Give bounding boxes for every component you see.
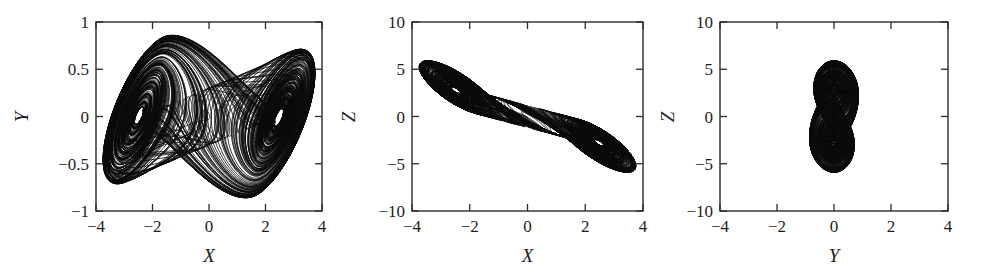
panel-yz: −4 −2 0 2 4 10 5 0 −5 −10 Y Z [660,0,996,276]
xtick-label: −4 [403,217,422,236]
ytick-label: 10 [696,13,713,32]
xtick-label: −4 [87,217,106,236]
yaxis-title-xz: Z [338,111,359,122]
ytick-label: 1 [81,13,90,32]
ytick-label: 0 [81,108,90,127]
trajectory-xy [103,35,315,198]
xtick-label: 4 [639,217,648,236]
panel-xz-plot-area: −4 −2 0 2 4 10 5 0 −5 −10 X Z [338,13,648,266]
ytick-label: 0 [705,108,714,127]
panel-xy-svg: −4 −2 0 2 4 1 0.5 0 −0.5 −1 X Y [0,0,340,276]
ytick-label: −10 [378,202,405,221]
xaxis-title-xz: X [521,245,535,266]
ytick-labels-xy: 1 0.5 0 −0.5 −1 [58,13,89,221]
xtick-label: 4 [318,217,327,236]
ytick-label: 0.5 [68,60,89,79]
panel-xz-svg: −4 −2 0 2 4 10 5 0 −5 −10 X Z [330,0,670,276]
ytick-label: −1 [71,202,89,221]
ytick-label: 10 [388,13,405,32]
trajectory-xz [419,61,636,173]
panel-yz-svg: −4 −2 0 2 4 10 5 0 −5 −10 Y Z [660,0,996,276]
xtick-label: −2 [768,217,786,236]
attractor-figure: −4 −2 0 2 4 1 0.5 0 −0.5 −1 X Y [0,0,996,276]
xtick-label: −2 [461,217,479,236]
ytick-labels-yz: 10 5 0 −5 −10 [686,13,713,221]
xtick-label: 2 [261,217,270,236]
ytick-label: 5 [705,60,714,79]
ytick-label: 5 [397,60,406,79]
xtick-label: −4 [711,217,730,236]
ytick-label: −0.5 [58,155,89,174]
xtick-label: −2 [143,217,161,236]
ytick-label: −5 [387,155,405,174]
xtick-label: 0 [830,217,839,236]
yaxis-title-xy: Y [11,109,32,122]
xtick-label: 2 [887,217,896,236]
ytick-labels-xz: 10 5 0 −5 −10 [378,13,405,221]
xtick-label: 4 [944,217,953,236]
xtick-labels-xz: −4 −2 0 2 4 [403,217,648,236]
xtick-labels-yz: −4 −2 0 2 4 [711,217,953,236]
xtick-labels-xy: −4 −2 0 2 4 [87,217,327,236]
ytick-label: −10 [686,202,713,221]
trajectory-yz [809,61,858,173]
xtick-label: 0 [205,217,214,236]
panel-xy: −4 −2 0 2 4 1 0.5 0 −0.5 −1 X Y [0,0,340,276]
panel-yz-plot-area: −4 −2 0 2 4 10 5 0 −5 −10 Y Z [660,13,953,266]
yaxis-title-yz: Z [660,111,678,122]
xaxis-title-yz: Y [829,245,842,266]
panel-xz: −4 −2 0 2 4 10 5 0 −5 −10 X Z [330,0,670,276]
ytick-label: 0 [397,108,406,127]
panel-xy-plot-area: −4 −2 0 2 4 1 0.5 0 −0.5 −1 X Y [11,13,327,266]
xtick-label: 0 [523,217,532,236]
axes-frame-xz [412,22,643,211]
axis-ticks-xz [412,22,643,211]
xtick-label: 2 [581,217,590,236]
xaxis-title-xy: X [202,245,216,266]
ytick-label: −5 [695,155,713,174]
